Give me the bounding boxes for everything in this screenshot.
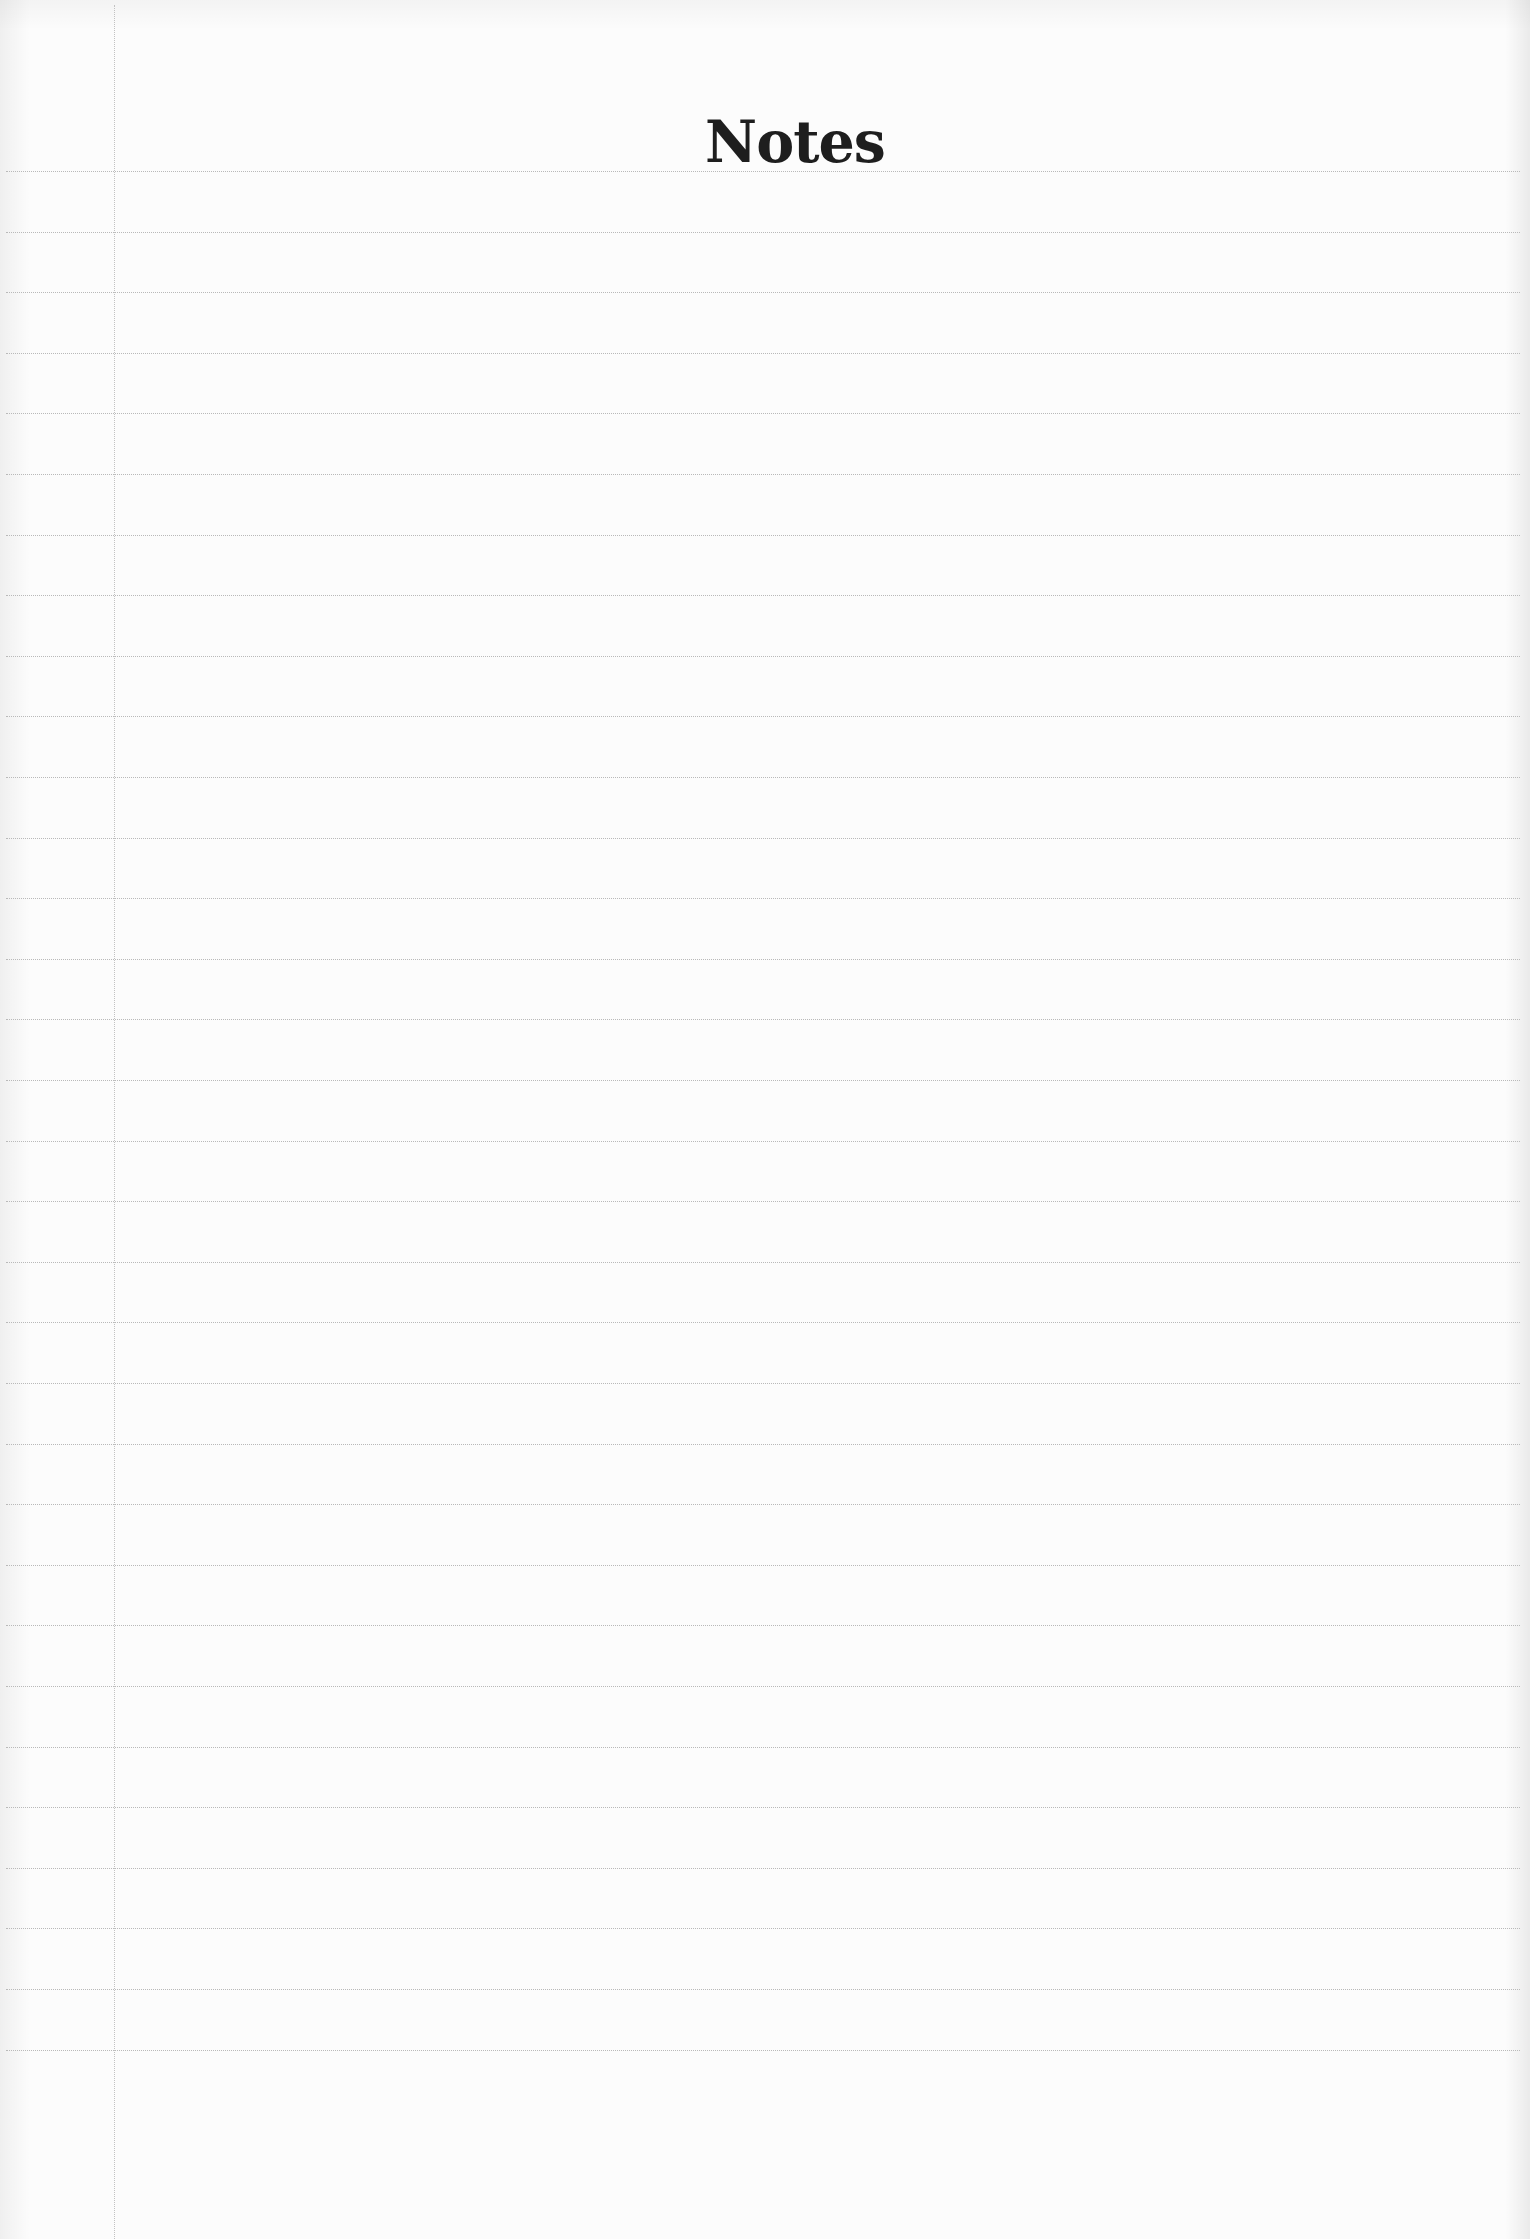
ruled-line	[6, 1262, 1520, 1263]
ruled-line	[6, 1383, 1520, 1384]
notes-page: Notes	[0, 0, 1530, 2239]
ruled-line	[6, 232, 1520, 233]
ruled-line	[6, 1141, 1520, 1142]
ruled-line	[6, 1565, 1520, 1566]
left-margin-line	[114, 5, 115, 2239]
ruled-line	[6, 1989, 1520, 1990]
ruled-line	[6, 1201, 1520, 1202]
ruled-line	[6, 838, 1520, 839]
ruled-line	[6, 595, 1520, 596]
ruled-line	[6, 898, 1520, 899]
ruled-line	[6, 1868, 1520, 1869]
ruled-line	[6, 2050, 1520, 2051]
ruled-line	[6, 1928, 1520, 1929]
ruled-line	[6, 959, 1520, 960]
page-title: Notes	[0, 112, 1530, 172]
ruled-line	[6, 535, 1520, 536]
ruled-line	[6, 1747, 1520, 1748]
ruled-line	[6, 1504, 1520, 1505]
ruled-line	[6, 474, 1520, 475]
ruled-line	[6, 292, 1520, 293]
ruled-line	[6, 1322, 1520, 1323]
ruled-line	[6, 1625, 1520, 1626]
ruled-line	[6, 1080, 1520, 1081]
ruled-line	[6, 716, 1520, 717]
ruled-line	[6, 1019, 1520, 1020]
ruled-line	[6, 1807, 1520, 1808]
ruled-line	[6, 656, 1520, 657]
ruled-line	[6, 413, 1520, 414]
ruled-line	[6, 353, 1520, 354]
ruled-line	[6, 1686, 1520, 1687]
ruled-line	[6, 1444, 1520, 1445]
ruled-line	[6, 777, 1520, 778]
